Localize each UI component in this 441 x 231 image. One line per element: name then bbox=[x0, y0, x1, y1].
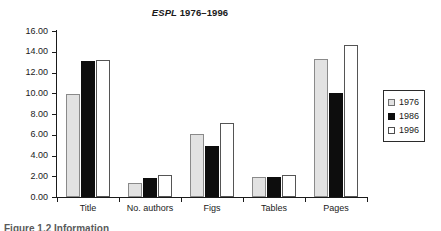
bar-1976-pages bbox=[314, 59, 328, 198]
y-axis-label: 16.00 bbox=[0, 27, 48, 36]
chart-title: ESPL 1976–1996 bbox=[0, 7, 380, 18]
bar-1996-figs bbox=[220, 123, 234, 197]
y-axis-label: 6.00 bbox=[0, 130, 48, 139]
x-axis-label-tables: Tables bbox=[243, 203, 305, 213]
bar-1996-title bbox=[96, 60, 110, 197]
bar-1986-title bbox=[81, 61, 95, 197]
x-axis-line bbox=[56, 197, 368, 198]
x-axis-label-no-authors: No. authors bbox=[119, 203, 181, 213]
x-axis-tick bbox=[181, 198, 182, 202]
x-axis-label-pages: Pages bbox=[305, 203, 367, 213]
bar-1976-tables bbox=[252, 177, 266, 197]
bar-1986-tables bbox=[267, 177, 281, 197]
bar-1986-pages bbox=[329, 93, 343, 197]
legend-label-1996: 1996 bbox=[399, 126, 419, 135]
y-axis-label: 4.00 bbox=[0, 151, 48, 160]
chart-title-rest: 1976–1996 bbox=[177, 7, 228, 18]
bar-1986-figs bbox=[205, 146, 219, 197]
y-axis-label: 0.00 bbox=[0, 193, 48, 202]
legend-swatch-1996-icon bbox=[388, 127, 395, 134]
legend-label-1976: 1976 bbox=[399, 98, 419, 107]
figure-caption-sliver: Figure 1.2 Information bbox=[4, 223, 441, 231]
chart-title-emphasis: ESPL bbox=[152, 7, 177, 18]
bar-1976-figs bbox=[190, 134, 204, 197]
bar-1976-title bbox=[66, 94, 80, 197]
chart-figure: ESPL 1976–1996 0.002.004.006.008.0010.00… bbox=[0, 0, 441, 231]
bar-1996-tables bbox=[282, 175, 296, 197]
x-axis-label-title: Title bbox=[57, 203, 119, 213]
y-axis-label: 2.00 bbox=[0, 172, 48, 181]
bar-1986-no-authors bbox=[143, 178, 157, 197]
bar-1976-no-authors bbox=[128, 183, 142, 197]
bar-1996-no-authors bbox=[158, 175, 172, 197]
legend-item[interactable]: 1976 bbox=[388, 95, 419, 109]
legend-item[interactable]: 1986 bbox=[388, 109, 419, 123]
y-axis-label: 8.00 bbox=[0, 110, 48, 119]
legend-swatch-1976-icon bbox=[388, 99, 395, 106]
x-axis-tick bbox=[119, 198, 120, 202]
legend-item[interactable]: 1996 bbox=[388, 123, 419, 137]
x-axis-tick bbox=[243, 198, 244, 202]
plot-area bbox=[57, 31, 367, 197]
x-axis-tick bbox=[367, 198, 368, 202]
legend-label-1986: 1986 bbox=[399, 112, 419, 121]
x-axis-label-figs: Figs bbox=[181, 203, 243, 213]
y-axis-label: 10.00 bbox=[0, 89, 48, 98]
bar-1996-pages bbox=[344, 45, 358, 197]
y-axis-label: 14.00 bbox=[0, 47, 48, 56]
y-axis-label: 12.00 bbox=[0, 68, 48, 77]
x-axis-tick bbox=[305, 198, 306, 202]
legend: 1976 1986 1996 bbox=[383, 90, 425, 142]
legend-swatch-1986-icon bbox=[388, 113, 395, 120]
x-axis-tick bbox=[57, 198, 58, 202]
